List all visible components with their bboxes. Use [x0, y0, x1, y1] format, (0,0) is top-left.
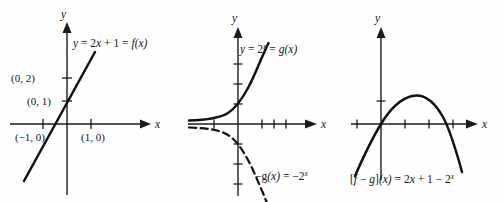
panel-linear-function: y x y = 2x + 1 = f(x) (0, 2) (0, 1) (−1,…	[0, 0, 168, 202]
eq-fn-arg: (x)	[284, 43, 297, 56]
y-axis-label: y	[60, 8, 67, 21]
neg-fn-arg: (x)	[267, 170, 280, 183]
equation-label-f-minus-g: [f − g](x) = 2x + 1 − 2x	[350, 172, 455, 186]
x-axis-label: x	[481, 118, 488, 130]
panel-difference-function: y x [f − g](x) = 2x + 1 − 2x	[336, 0, 504, 202]
y-axis-arrowhead	[63, 22, 72, 33]
equation-label-negative-g: −g(x) = −2x	[255, 169, 309, 183]
neg-fn-prefix: −g	[255, 170, 267, 183]
x-axis-arrowhead	[466, 120, 478, 129]
eq-part2: =	[266, 43, 278, 55]
equation-label-g: y = 2x = g(x)	[239, 42, 297, 56]
eq-exponent-x: x	[450, 172, 455, 181]
eq-plus-one: + 1 − 2	[415, 173, 451, 185]
y-axis-label: y	[231, 12, 238, 25]
point-label-1-0: (1, 0)	[81, 131, 105, 144]
graph-difference: y x [f − g](x) = 2x + 1 − 2x	[336, 0, 504, 202]
eq-part1: = 2	[78, 37, 96, 49]
y-axis-arrowhead	[377, 27, 386, 38]
eq-equals: = 2	[392, 173, 410, 185]
curve-f-minus-g	[355, 95, 462, 176]
point-label-0-1: (0, 1)	[27, 95, 51, 108]
graph-linear: y x y = 2x + 1 = f(x) (0, 2) (0, 1) (−1,…	[0, 0, 168, 202]
point-label-minus1-0: (−1, 0)	[15, 131, 45, 144]
x-axis-arrowhead	[305, 120, 317, 129]
point-label-0-2: (0, 2)	[11, 72, 35, 85]
x-axis-label: x	[320, 118, 327, 130]
y-axis-label: y	[374, 12, 381, 25]
eq-fn-arg: (x)	[135, 37, 148, 50]
y-axis-arrowhead	[234, 27, 243, 38]
neg-exponent-x: x	[304, 169, 309, 178]
curve-negative-g-exponential	[189, 128, 267, 202]
panel-exponential-function: y x y = 2x = g(x) −g(x) = −2x	[168, 0, 336, 202]
equation-label-f: y = 2x + 1 = f(x)	[72, 37, 148, 50]
graph-exponential: y x y = 2x = g(x) −g(x) = −2x	[168, 0, 336, 202]
eq-plus-one: + 1 =	[101, 37, 131, 49]
x-axis-label: x	[154, 118, 161, 130]
eq-part1: = 2	[245, 43, 263, 55]
eq-arg: (x)	[379, 173, 392, 186]
neg-eq: = −2	[280, 170, 305, 182]
x-axis-arrowhead	[140, 120, 151, 129]
eq-minus: −	[357, 173, 369, 185]
three-panel-function-figure: y x y = 2x + 1 = f(x) (0, 2) (0, 1) (−1,…	[0, 0, 504, 202]
